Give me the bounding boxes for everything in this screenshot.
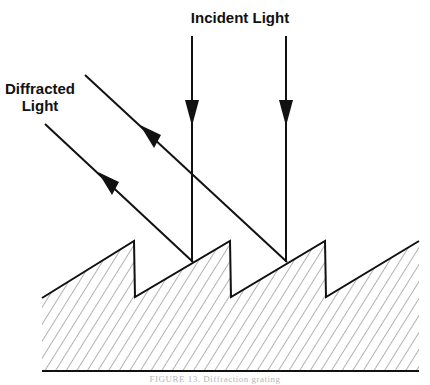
figure-caption: FIGURE 13. Diffraction grating xyxy=(150,374,281,384)
incident-ray-1 xyxy=(185,36,199,262)
incident-ray-2 xyxy=(279,36,293,262)
diffracted-light-label-line1: Diffracted xyxy=(5,80,75,97)
diffracted-ray-1 xyxy=(45,124,193,262)
grating-substrate xyxy=(30,230,430,380)
diffraction-grating-diagram: Incident Light Diffracted Light FIGURE 1… xyxy=(0,0,430,385)
arrow-up-left-icon xyxy=(98,172,119,195)
incident-light-label: Incident Light xyxy=(191,9,289,26)
arrow-down-icon xyxy=(279,100,293,126)
diffracted-light-label-line2: Light xyxy=(22,97,59,114)
arrow-up-left-icon xyxy=(140,125,161,148)
arrow-down-icon xyxy=(185,100,199,126)
